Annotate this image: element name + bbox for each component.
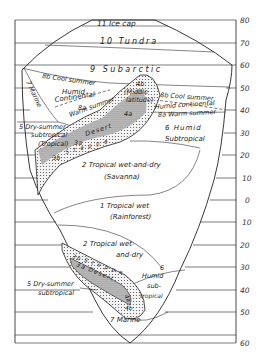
label-rainforest-2: (Rainforest): [110, 213, 152, 221]
label-subarctic: 9 Subarctic: [90, 65, 163, 74]
label-4b-south: 4b: [125, 304, 133, 311]
label-sub-south: sub-: [147, 282, 162, 290]
tundra-boundary: [45, 45, 214, 52]
label-humid-subtropical-north-1: 6 Humid: [165, 124, 202, 132]
svg-text:50: 50: [240, 84, 250, 93]
label-savanna-south-2: and-dry: [116, 251, 144, 259]
svg-text:50: 50: [240, 308, 250, 317]
svg-text:10: 10: [242, 218, 252, 227]
label-6-south: 6: [160, 264, 164, 272]
svg-text:10: 10: [242, 174, 252, 183]
svg-text:60: 60: [240, 61, 250, 70]
label-dry-summer-south-1: 5 Dry-summer: [27, 280, 75, 288]
label-rainforest-1: 1 Tropical wet: [100, 202, 149, 210]
label-marine-north: 7 Marine: [24, 79, 43, 108]
label-ice-cap: 11 Ice cap: [97, 19, 136, 28]
svg-text:40: 40: [240, 286, 250, 295]
svg-text:60: 60: [240, 339, 250, 348]
label-savanna-north-1: 2 Tropical wet-and-dry: [82, 161, 162, 169]
label-warm-summer-right: 8a Warm summer: [158, 108, 218, 119]
svg-text:40: 40: [240, 106, 250, 115]
label-dry-summer-south-2: subtropical: [38, 289, 74, 297]
label-tropical-south: tropical: [140, 292, 163, 300]
latitude-tick-labels: 80 70 60 50 40 30 20 10 0 10 20 30 40 50…: [240, 16, 252, 348]
label-marine-south: 7 Marine: [110, 316, 141, 324]
label-latitude: latitude): [126, 96, 153, 104]
label-continental-left: Continental: [54, 90, 95, 104]
svg-text:20: 20: [240, 151, 250, 160]
label-humid-south: Humid: [142, 272, 164, 280]
climate-diagram: 80 70 60 50 40 30 20 10 0 10 20 30 40 50…: [0, 0, 268, 360]
label-cool-summer-left: 8b Cool summer: [42, 72, 97, 88]
label-savanna-north-2: (Savanna): [104, 173, 140, 181]
svg-text:30: 30: [240, 129, 250, 138]
label-4a: 4a: [124, 110, 132, 118]
svg-text:20: 20: [240, 241, 250, 250]
svg-text:70: 70: [240, 39, 250, 48]
label-humid-subtropical-north-2: Subtropical: [165, 135, 205, 143]
label-savanna-south-1: 2 Tropical wet-: [83, 240, 135, 248]
label-dry-summer-north-1: 5 Dry-summer: [19, 123, 67, 131]
label-dry-summer-north-2: subtropical: [31, 131, 67, 139]
svg-text:0: 0: [245, 196, 250, 205]
label-4b: 4b: [136, 80, 144, 88]
svg-text:80: 80: [240, 16, 250, 25]
label-tundra: 10 Tundra: [100, 37, 158, 46]
label-middle: (Middle: [124, 88, 148, 96]
label-tropical-north: (Tropical): [38, 140, 68, 148]
label-3b-north: 3b: [52, 154, 60, 162]
svg-text:30: 30: [240, 263, 250, 272]
